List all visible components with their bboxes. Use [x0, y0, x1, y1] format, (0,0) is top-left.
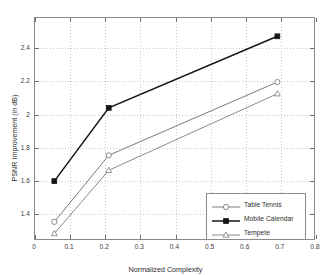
legend-sample-icon [211, 213, 241, 225]
legend-item-table-tennis[interactable]: Table Tennis [207, 197, 305, 212]
legend-label: Tempete [244, 229, 270, 236]
chart-figure: Table TennisMobile CalendarTempete 00.10… [0, 0, 331, 275]
x-axis-tick [316, 18, 317, 22]
chart-legend: Table TennisMobile CalendarTempete [206, 193, 306, 240]
y-tick-label: 1.4 [8, 210, 30, 217]
x-axis-label: Normalized Complexity [0, 265, 331, 274]
x-tick-label: 0.1 [64, 243, 73, 250]
legend-sample-icon [211, 199, 241, 211]
marker-circle-icon [223, 204, 228, 209]
y-axis-label: PSNR Improvement (in dB) [10, 73, 19, 203]
marker-circle-icon [275, 79, 280, 84]
series-mobile-calendar [52, 34, 280, 184]
x-tick-label: 0 [32, 243, 36, 250]
x-tick-label: 0.4 [170, 243, 179, 250]
legend-sample-icon [211, 227, 241, 239]
marker-circle-icon [106, 153, 111, 158]
legend-item-tempete[interactable]: Tempete [207, 225, 305, 240]
legend-item-mobile-calendar[interactable]: Mobile Calendar [207, 211, 305, 226]
x-tick-label: 0.3 [135, 243, 144, 250]
x-tick-label: 0.5 [205, 243, 214, 250]
marker-circle-icon [52, 219, 57, 224]
marker-square-icon [106, 105, 111, 110]
legend-label: Table Tennis [244, 201, 282, 208]
y-tick-label: 2.4 [8, 43, 30, 50]
x-axis-tick [316, 235, 317, 239]
x-tick-label: 0.7 [275, 243, 284, 250]
marker-square-icon [275, 34, 280, 39]
plot-area: Table TennisMobile CalendarTempete [34, 17, 315, 240]
marker-square-icon [224, 218, 229, 223]
x-tick-label: 0.2 [100, 243, 109, 250]
marker-square-icon [52, 179, 57, 184]
legend-label: Mobile Calendar [244, 215, 294, 222]
marker-triangle-icon [274, 91, 280, 96]
x-tick-label: 0.6 [240, 243, 249, 250]
x-tick-label: 0.8 [310, 243, 319, 250]
